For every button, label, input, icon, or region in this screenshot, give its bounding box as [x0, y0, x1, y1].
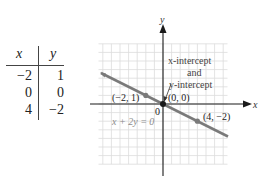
- annotation-arrow-icon: [164, 96, 168, 102]
- origin-label: 0: [155, 106, 160, 117]
- point-neg2-1: [143, 93, 148, 98]
- coordinate-graph: y x 0 x-intercept and y-intercept (−2, 1…: [0, 0, 260, 182]
- annotation-line-1: x-intercept: [168, 55, 212, 66]
- point-label-origin: (0, 0): [168, 92, 190, 104]
- point-label-4-neg2: (4, −2): [203, 111, 230, 123]
- x-axis-label: x: [252, 99, 258, 110]
- point-origin: [160, 101, 166, 107]
- point-4-neg2: [195, 119, 200, 124]
- x-axis-arrow-icon: [243, 101, 252, 108]
- annotation-line-2: and: [187, 67, 201, 78]
- equation-label: x + 2y = 0: [111, 116, 154, 127]
- point-label-neg2-1: (−2, 1): [112, 92, 139, 104]
- y-axis-arrow-icon: [160, 24, 167, 33]
- annotation-line-3: y-intercept: [169, 79, 213, 90]
- y-axis-label: y: [159, 14, 165, 25]
